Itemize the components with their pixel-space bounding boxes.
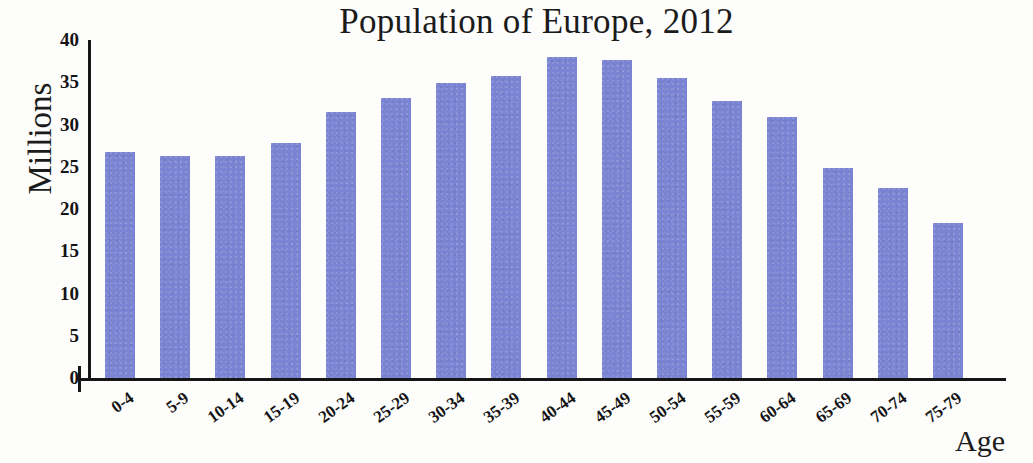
bar xyxy=(602,60,632,378)
bar xyxy=(381,98,411,378)
y-tick-label: 0 xyxy=(70,367,80,389)
x-tick-label: 20-24 xyxy=(305,388,359,435)
bars-layer xyxy=(88,40,1006,378)
y-tick-label: 35 xyxy=(60,71,79,93)
bar xyxy=(933,223,963,378)
x-tick-label: 25-29 xyxy=(360,388,414,435)
y-tick-label: 25 xyxy=(60,156,79,178)
x-tick-label: 60-64 xyxy=(746,388,800,435)
bar xyxy=(105,152,135,378)
x-tick-label: 55-59 xyxy=(691,388,745,435)
y-tick-label: 40 xyxy=(60,29,79,51)
x-tick-labels: 0-45-910-1415-1920-2425-2930-3435-3940-4… xyxy=(88,382,1006,442)
x-tick-label: 65-69 xyxy=(802,388,856,435)
bar xyxy=(657,78,687,378)
x-tick-label: 45-49 xyxy=(581,388,635,435)
x-tick-label: 75-79 xyxy=(912,388,966,435)
x-tick-label: 10-14 xyxy=(194,388,248,435)
y-tick-label: 5 xyxy=(70,325,80,347)
bar xyxy=(160,156,190,378)
bar xyxy=(712,101,742,378)
y-tick-label: 10 xyxy=(60,283,79,305)
bar xyxy=(547,57,577,378)
bar xyxy=(436,83,466,378)
x-tick-label: 0-4 xyxy=(84,388,138,435)
x-tick-label: 35-39 xyxy=(470,388,524,435)
y-tick-label: 30 xyxy=(60,114,79,136)
chart-title: Population of Europe, 2012 xyxy=(0,2,1033,42)
y-tick-label: 15 xyxy=(60,240,79,262)
x-tick-label: 15-19 xyxy=(250,388,304,435)
bar xyxy=(823,168,853,378)
x-tick-label: 5-9 xyxy=(139,388,193,435)
plot-area: 0510152025303540 xyxy=(88,40,1006,378)
x-tick-label: 70-74 xyxy=(857,388,911,435)
x-tick-label: 40-44 xyxy=(526,388,580,435)
bar xyxy=(326,112,356,378)
bar xyxy=(491,76,521,378)
bar xyxy=(767,117,797,378)
bar-chart-figure: Population of Europe, 2012 Millions Age … xyxy=(0,0,1033,463)
y-tick-label: 20 xyxy=(60,198,79,220)
bar xyxy=(271,143,301,378)
bar xyxy=(215,156,245,378)
x-axis-line xyxy=(78,378,1006,381)
x-tick-label: 30-34 xyxy=(415,388,469,435)
bar xyxy=(878,188,908,378)
x-tick-label: 50-54 xyxy=(636,388,690,435)
y-axis-title: Millions xyxy=(22,59,59,219)
